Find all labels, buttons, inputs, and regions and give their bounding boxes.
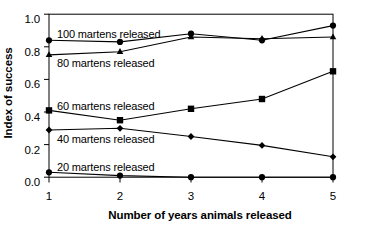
data-point <box>330 23 336 29</box>
series-annotation-20-martens: 20 martens released <box>57 161 154 173</box>
data-point <box>259 35 266 41</box>
plot-area <box>0 0 367 233</box>
data-point <box>46 127 53 134</box>
series-line <box>49 71 333 120</box>
data-point <box>330 33 337 39</box>
series-60-martens <box>46 68 336 123</box>
series-annotation-100-martens: 100 martens released <box>57 28 160 40</box>
data-point <box>46 51 53 57</box>
data-point <box>259 142 266 149</box>
x-axis-title: Number of years animals released <box>40 209 360 221</box>
data-point <box>117 125 124 132</box>
series-annotation-40-martens: 40 martens released <box>57 133 154 145</box>
data-point <box>330 68 336 74</box>
data-point <box>46 107 52 113</box>
data-point <box>259 174 265 180</box>
data-point <box>188 174 194 180</box>
data-point <box>188 106 194 112</box>
data-point <box>330 174 336 180</box>
chart-figure: Index of success 1.0 0.8 0.6 0.4 0.2 0.0… <box>0 0 367 233</box>
data-point <box>46 37 52 43</box>
data-point <box>188 133 195 140</box>
series-annotation-60-martens: 60 martens released <box>57 100 154 112</box>
data-point <box>46 169 52 175</box>
data-point <box>330 153 337 160</box>
data-point <box>117 173 123 179</box>
series-annotation-80-martens: 80 martens released <box>57 57 154 69</box>
data-point <box>259 96 265 102</box>
data-point <box>117 117 123 123</box>
